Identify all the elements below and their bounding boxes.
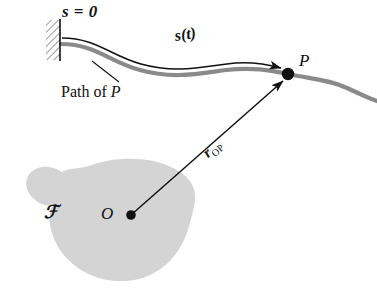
kinematics-figure: s = 0 s(t) Path of P P O ℱ rOP [0,0,377,293]
point-o-marker [126,210,136,220]
arc-length-curve [62,38,281,69]
figure-canvas [0,0,377,293]
point-p-marker [282,68,294,80]
path-caption: Path of P [61,84,121,100]
point-p-label: P [299,52,309,69]
datum-label: s = 0 [62,3,98,20]
path-caption-point: P [111,83,121,100]
fixed-wall-support [46,20,60,60]
path-caption-leader [92,61,119,82]
arc-length-label: s(t) [173,25,197,44]
path-caption-prefix: Path of [61,83,111,100]
reference-frame-label: ℱ [44,203,58,221]
point-o-label: O [101,205,113,222]
